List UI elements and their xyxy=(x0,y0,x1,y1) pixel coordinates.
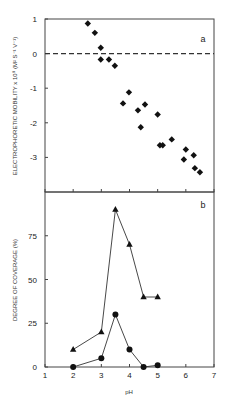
y-tick-label: 0 xyxy=(33,50,38,59)
data-point-diamond xyxy=(183,146,189,152)
data-point-circle xyxy=(98,355,104,361)
series-line-triangles xyxy=(73,210,158,350)
y-tick-label: 0 xyxy=(33,363,38,372)
y-tick-label: -1 xyxy=(30,84,38,93)
x-tick-label: 1 xyxy=(43,371,48,380)
panel-b-letter: b xyxy=(200,200,205,210)
data-point-diamond xyxy=(106,56,112,62)
data-point-triangle xyxy=(126,241,132,247)
data-point-diamond xyxy=(197,169,203,175)
panel-a: 10-1-2-3 xyxy=(30,15,214,192)
x-tick-label: 4 xyxy=(127,371,132,380)
data-point-diamond xyxy=(154,111,160,117)
series-line-circles xyxy=(73,315,158,368)
data-point-diamond xyxy=(98,56,104,62)
data-point-diamond xyxy=(138,124,144,130)
data-point-diamond xyxy=(142,101,148,107)
data-point-diamond xyxy=(112,63,118,69)
x-tick-label: 6 xyxy=(184,371,189,380)
y-tick-label: -3 xyxy=(30,153,38,162)
data-point-triangle xyxy=(154,294,160,300)
data-point-diamond xyxy=(85,20,91,26)
y-tick-label: 75 xyxy=(28,232,37,241)
data-point-diamond xyxy=(169,136,175,142)
x-tick-label: 5 xyxy=(155,371,160,380)
x-tick-label: 3 xyxy=(99,371,104,380)
y-tick-label: 50 xyxy=(28,276,37,285)
data-point-diamond xyxy=(92,30,98,36)
x-axis-title: pH xyxy=(125,389,133,395)
data-point-triangle xyxy=(140,294,146,300)
data-point-diamond xyxy=(192,165,198,171)
panel-b: 12345670255075 xyxy=(28,192,217,380)
y-axis-title-a: ELECTROPHORETIC MOBILITY x 10⁸ (M² S⁻¹ V… xyxy=(12,37,18,175)
y-tick-label: 25 xyxy=(28,319,37,328)
y-tick-label: 1 xyxy=(33,15,38,24)
data-point-diamond xyxy=(135,107,141,113)
data-point-diamond xyxy=(98,45,104,51)
data-point-circle xyxy=(70,364,76,370)
data-point-triangle xyxy=(112,206,118,212)
data-point-diamond xyxy=(120,100,126,106)
data-point-diamond xyxy=(181,156,187,162)
data-point-circle xyxy=(112,312,118,318)
data-point-diamond xyxy=(126,89,132,95)
data-point-circle xyxy=(141,364,147,370)
x-tick-label: 7 xyxy=(212,371,217,380)
y-axis-title-b: DEGREE OF COVERAGE (%) xyxy=(12,239,18,321)
data-point-circle xyxy=(127,347,133,353)
data-point-triangle xyxy=(70,346,76,352)
figure: 10-1-2-3 12345670255075 ELECTROPHORETIC … xyxy=(0,0,227,414)
panel-a-letter: a xyxy=(200,34,205,44)
plot-frame xyxy=(45,19,214,192)
data-point-diamond xyxy=(191,152,197,158)
y-tick-label: -2 xyxy=(30,119,38,128)
data-point-triangle xyxy=(98,329,104,335)
plot-frame xyxy=(45,192,214,367)
data-point-circle xyxy=(155,362,161,368)
x-tick-label: 2 xyxy=(71,371,76,380)
